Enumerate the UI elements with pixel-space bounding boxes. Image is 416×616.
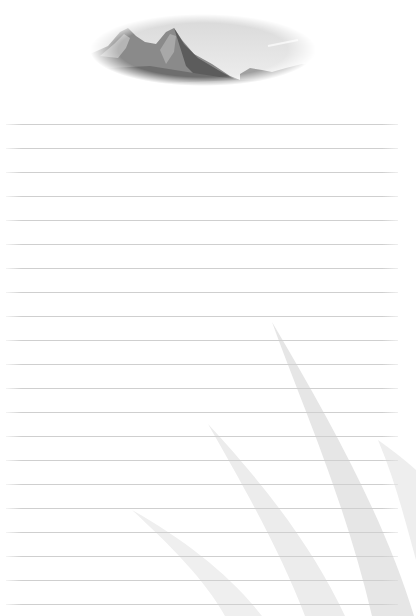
ruled-line bbox=[6, 388, 398, 389]
ruled-line bbox=[6, 580, 398, 581]
ruled-line bbox=[6, 172, 398, 173]
ruled-line bbox=[6, 532, 398, 533]
notepaper-page bbox=[0, 0, 416, 616]
ruled-line bbox=[6, 316, 398, 317]
ruled-line bbox=[6, 244, 398, 245]
ruled-line bbox=[6, 148, 398, 149]
ruled-line bbox=[6, 604, 398, 605]
ruled-line bbox=[6, 268, 398, 269]
ruled-line bbox=[6, 364, 398, 365]
ruled-line bbox=[6, 196, 398, 197]
ruled-line bbox=[6, 220, 398, 221]
ruled-line bbox=[6, 340, 398, 341]
ruled-line bbox=[6, 484, 398, 485]
ruled-line bbox=[6, 508, 398, 509]
ruled-line bbox=[6, 556, 398, 557]
ruled-lines bbox=[6, 0, 398, 616]
ruled-line bbox=[6, 124, 398, 125]
ruled-line bbox=[6, 460, 398, 461]
ruled-line bbox=[6, 436, 398, 437]
ruled-line bbox=[6, 292, 398, 293]
ruled-line bbox=[6, 412, 398, 413]
